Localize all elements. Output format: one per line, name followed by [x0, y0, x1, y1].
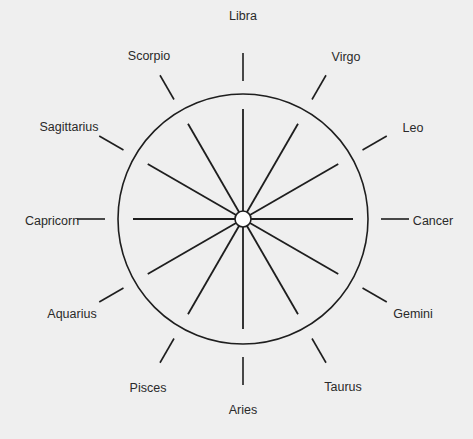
label-scorpio: Scorpio: [128, 50, 170, 63]
spoke-leo: [250, 164, 338, 215]
label-sagittarius: Sagittarius: [39, 121, 98, 134]
zodiac-wheel-diagram: LibraVirgoLeoCancerGeminiTaurusAriesPisc…: [0, 0, 473, 439]
label-virgo: Virgo: [332, 51, 361, 64]
tick-taurus: [312, 339, 326, 363]
spoke-gemini: [250, 223, 338, 274]
spoke-aquarius: [148, 223, 236, 274]
tick-pisces: [160, 339, 174, 363]
tick-virgo: [312, 75, 326, 99]
label-aries: Aries: [229, 404, 257, 417]
spoke-virgo: [247, 124, 298, 212]
label-gemini: Gemini: [393, 308, 433, 321]
tick-sagittarius: [99, 136, 123, 150]
label-capricorn: Capricorn: [25, 215, 79, 228]
tick-leo: [363, 136, 387, 150]
label-aquarius: Aquarius: [47, 308, 96, 321]
spoke-sagittarius: [148, 164, 236, 215]
label-cancer: Cancer: [413, 215, 453, 228]
spoke-scorpio: [188, 124, 239, 212]
tick-gemini: [363, 288, 387, 302]
label-taurus: Taurus: [324, 381, 362, 394]
label-leo: Leo: [403, 122, 424, 135]
center-hub: [235, 211, 251, 227]
tick-aquarius: [99, 288, 123, 302]
label-libra: Libra: [229, 10, 257, 23]
spoke-taurus: [247, 226, 298, 314]
label-pisces: Pisces: [130, 382, 167, 395]
tick-scorpio: [160, 75, 174, 99]
spoke-pisces: [188, 226, 239, 314]
